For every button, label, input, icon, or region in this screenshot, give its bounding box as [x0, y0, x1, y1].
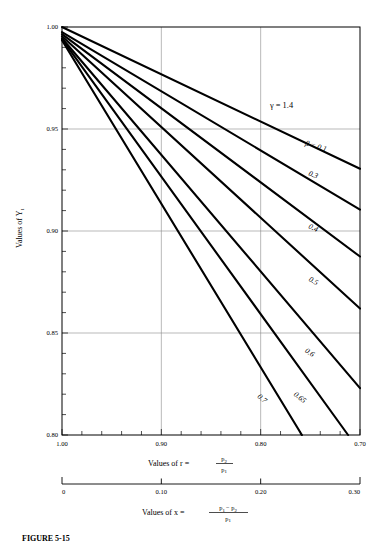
secondary-x-axis-title-prefix: Values of x = — [142, 508, 185, 517]
secondary-x-frac-numerator: p1 − p2 — [219, 504, 237, 513]
secondary-axis-tick-label: 0.20 — [255, 488, 267, 495]
figure-caption: FIGURE 5-15 — [22, 534, 70, 542]
y-tick-label: 0.85 — [46, 329, 58, 336]
primary-x-frac-denominator: p1 — [221, 466, 227, 475]
secondary-x-axis: 00.100.200.30 — [62, 477, 361, 495]
primary-x-axis-title: Values of r = p2 p1 — [148, 455, 233, 474]
svg-text:Values of Y1: Values of Y1 — [15, 208, 25, 248]
x-tick-label: 0.70 — [354, 440, 366, 447]
y-axis-title-text: Values of Y — [15, 210, 24, 248]
y-tick-label: 1.00 — [46, 23, 58, 30]
y-tick-label: 0.90 — [46, 227, 58, 234]
y-axis-tick-labels: 1.000.950.900.850.80 — [46, 23, 58, 438]
x-tick-label: 0.80 — [255, 440, 267, 447]
primary-x-axis-title-prefix: Values of r = — [148, 459, 190, 468]
secondary-x-axis-title: Values of x = p1 − p2 p1 — [142, 504, 248, 523]
x-tick-label: 1.00 — [56, 440, 68, 447]
secondary-axis-tick-label: 0.30 — [348, 488, 360, 495]
secondary-x-frac-denominator: p1 — [225, 515, 231, 524]
y-tick-label: 0.80 — [46, 431, 58, 438]
gamma-annotation: γ = 1.4 — [269, 101, 294, 110]
secondary-axis-tick-label: 0 — [62, 488, 66, 495]
secondary-axis-ticks — [62, 477, 360, 484]
figure-container: β = 0.10.30.40.50.60.650.7 1.000.950.900… — [0, 0, 392, 542]
x-axis-tick-labels: 1.000.900.800.70 — [56, 440, 366, 447]
primary-x-frac-numerator: p2 — [221, 455, 227, 464]
y-axis-title-subscript: 1 — [20, 208, 25, 211]
y-axis-title: Values of Y1 — [15, 208, 25, 248]
x-tick-label: 0.90 — [156, 440, 168, 447]
chart-canvas: β = 0.10.30.40.50.60.650.7 1.000.950.900… — [0, 0, 392, 542]
y-tick-label: 0.95 — [46, 125, 58, 132]
secondary-axis-tick-labels: 00.100.200.30 — [62, 488, 361, 495]
secondary-axis-tick-label: 0.10 — [156, 488, 168, 495]
